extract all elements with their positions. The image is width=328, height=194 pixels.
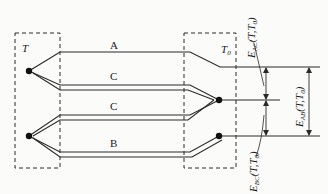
wire-a-label: A [110,39,118,51]
emf-bc-label: EBC(T,T0) [247,151,261,193]
junction-dot-left-bottom [26,133,32,139]
wire-b-label: B [110,137,117,149]
wire-c-upper-label: C [110,70,117,82]
junction-dot-right-bottom [216,133,222,139]
hot-junction-label: T [22,42,29,54]
wire-a [29,52,320,71]
thermocouple-diagram: T T0 A C C B [0,0,328,194]
wire-b [29,136,222,157]
wire-c-lower-label: C [110,100,117,112]
diagram-canvas: T T0 A C C B [0,0,328,194]
cold-junction-label: T0 [221,43,231,57]
wire-c-upper [29,71,219,100]
wire-c-lower [29,100,219,136]
emf-ab-label: EAB(T,T0) [293,86,307,128]
junction-dot-left-top [26,68,32,74]
junction-dot-right-top [216,97,222,103]
emf-ac-label: EAC(T,T0) [245,17,259,59]
